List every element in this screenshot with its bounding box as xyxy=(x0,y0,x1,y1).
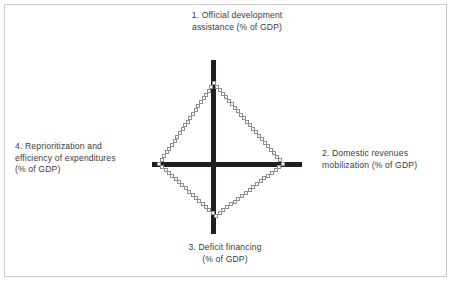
data-point-marker xyxy=(194,108,198,112)
data-point-marker xyxy=(209,85,213,89)
data-point-marker xyxy=(170,143,174,147)
data-point-marker xyxy=(229,202,233,206)
data-point-marker xyxy=(165,150,169,154)
data-point-marker xyxy=(262,176,266,180)
data-point-marker xyxy=(259,179,263,183)
data-point-marker xyxy=(162,154,166,158)
data-point-marker xyxy=(204,93,208,97)
data-point-marker xyxy=(207,89,211,93)
data-point-marker xyxy=(183,123,187,127)
data-point-marker xyxy=(181,127,185,131)
data-point-marker xyxy=(173,139,177,143)
data-point-marker xyxy=(277,165,281,169)
data-point-marker xyxy=(191,112,195,116)
data-point-marker xyxy=(236,197,240,201)
data-point-marker xyxy=(178,131,182,135)
data-point-marker xyxy=(160,158,164,162)
data-point-marker xyxy=(266,174,270,178)
data-point-marker xyxy=(270,171,274,175)
data-point-marker xyxy=(188,116,192,120)
data-point-marker xyxy=(221,208,225,212)
data-point-marker xyxy=(196,104,200,108)
data-point-marker xyxy=(244,191,248,195)
data-point-marker xyxy=(157,162,161,166)
figure-canvas: 1. Official development assistance (% of… xyxy=(0,0,452,282)
data-point-marker xyxy=(281,162,285,166)
axis-label-reprioritization-efficiency-expenditures: 4. Reprioritization and efficiency of ex… xyxy=(15,141,145,176)
data-point-marker xyxy=(199,100,203,104)
data-point-marker xyxy=(212,81,216,85)
data-point-marker xyxy=(175,135,179,139)
axis-label-official-development-assistance: 1. Official development assistance (% of… xyxy=(162,10,312,33)
data-point-marker xyxy=(233,200,237,204)
data-point-marker xyxy=(186,120,190,124)
data-point-marker xyxy=(225,205,229,209)
data-point-marker xyxy=(274,168,278,172)
data-point-marker xyxy=(167,147,171,151)
data-point-marker xyxy=(255,182,259,186)
data-point-marker xyxy=(251,185,255,189)
data-point-marker xyxy=(240,194,244,198)
data-point-marker xyxy=(218,211,222,215)
axis-label-domestic-revenues-mobilization: 2. Domestic revenues mobilization (% of … xyxy=(322,148,448,171)
data-point-marker xyxy=(202,96,206,100)
axis-label-deficit-financing: 3. Deficit financing (% of GDP) xyxy=(150,242,300,265)
data-point-marker xyxy=(248,188,252,192)
